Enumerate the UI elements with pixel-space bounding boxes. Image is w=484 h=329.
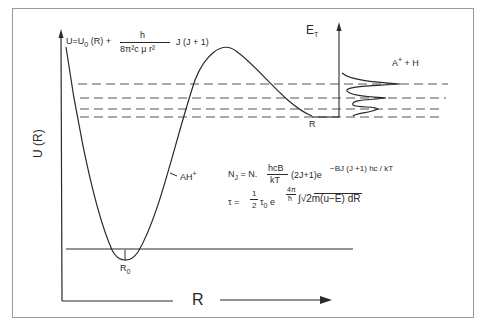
r0-sub: 0 bbox=[127, 268, 131, 275]
population-fraction-den: kT bbox=[270, 176, 280, 185]
energy-levels bbox=[78, 84, 448, 117]
eq-lhs-sub: 0 bbox=[84, 41, 88, 48]
nj-eq: = N. bbox=[238, 169, 257, 179]
y-axis-arrow-icon bbox=[59, 29, 64, 38]
energy-distribution-curve bbox=[342, 73, 400, 116]
inset-y-axis-arrow-icon bbox=[337, 22, 342, 31]
potential-equation: U=U0 (R) + bbox=[66, 37, 111, 46]
potential-suffix: J (J + 1) bbox=[176, 38, 209, 47]
nj-sub: J bbox=[235, 174, 239, 181]
sqrt-overline bbox=[314, 193, 362, 194]
potential-fraction-bar bbox=[120, 42, 170, 43]
et-sub: T bbox=[314, 31, 318, 38]
population-middle: (2J+1)e bbox=[291, 171, 322, 180]
ah-main: AH bbox=[180, 172, 193, 182]
lifetime-exp-num: 4π bbox=[287, 186, 296, 193]
population-equation-lhs: NJ = N. bbox=[228, 170, 257, 179]
ah-plus-leader bbox=[170, 173, 177, 176]
r0-main: R bbox=[120, 263, 127, 273]
tau0-sub: 0 bbox=[264, 202, 268, 209]
lifetime-integral: ∫√2m(u−E) dR bbox=[298, 194, 360, 204]
x-axis-label: R bbox=[192, 292, 204, 308]
inset-x-label: R bbox=[309, 120, 316, 129]
potential-curve bbox=[66, 47, 312, 260]
et-main: E bbox=[306, 23, 314, 37]
products-label: A+ + H bbox=[392, 59, 419, 68]
figure-frame bbox=[13, 9, 474, 318]
population-exponent: −BJ (J +1) hc / kT bbox=[330, 165, 393, 173]
y-axis bbox=[61, 36, 62, 301]
lifetime-lhs: τ = bbox=[228, 198, 239, 207]
population-fraction-num: hcB bbox=[268, 164, 284, 173]
integral-expr: ∫√2m(u−E) dR bbox=[298, 193, 360, 204]
r0-label: R0 bbox=[120, 264, 130, 273]
x-axis-arrow-icon bbox=[320, 296, 332, 304]
lifetime-half-den: 2 bbox=[252, 202, 256, 210]
lifetime-exp-den: ħ bbox=[288, 195, 292, 202]
potential-fraction-den: 8π²c μ r² bbox=[120, 45, 155, 54]
y-axis-label: U (R) bbox=[32, 129, 44, 158]
ah-plus-label: AH+ bbox=[180, 173, 197, 182]
inset-y-label: ET bbox=[306, 24, 318, 36]
tau-e: e bbox=[270, 197, 275, 207]
potential-fraction-num: h bbox=[140, 31, 145, 40]
products-rest: + H bbox=[402, 58, 419, 68]
lifetime-half-bar bbox=[250, 199, 258, 200]
lifetime-half-num: 1 bbox=[252, 190, 256, 198]
eq-lhs-rest: (R) + bbox=[88, 36, 111, 46]
eq-lhs: U=U bbox=[66, 36, 84, 46]
lifetime-tau0: τ0 e bbox=[260, 198, 275, 207]
products-sup: + bbox=[398, 56, 402, 63]
potential-energy-diagram bbox=[0, 0, 484, 329]
nj-main: N bbox=[228, 169, 235, 179]
ah-sup: + bbox=[193, 170, 197, 177]
